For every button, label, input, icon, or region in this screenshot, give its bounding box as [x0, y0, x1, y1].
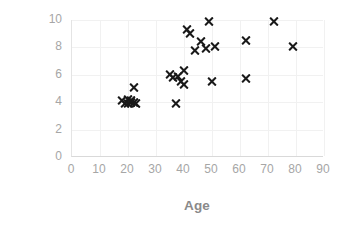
data-point-marker [173, 71, 184, 82]
gridline-vertical [128, 20, 129, 156]
gridline-vertical [184, 20, 185, 156]
gridline-vertical [268, 20, 269, 156]
x-tick-label: 90 [308, 162, 338, 176]
x-tick-label: 0 [56, 162, 86, 176]
x-tick-label: 40 [168, 162, 198, 176]
gridline-vertical [212, 20, 213, 156]
x-axis-title: Age [71, 198, 323, 213]
data-point-marker [240, 35, 251, 46]
y-tick-label: 4 [36, 94, 62, 108]
data-point-marker [288, 41, 299, 52]
data-point-marker [190, 45, 201, 56]
data-point-marker [268, 16, 279, 27]
x-tick-label: 70 [252, 162, 282, 176]
x-tick-label: 80 [280, 162, 310, 176]
data-point-marker [131, 98, 142, 109]
gridline-vertical [296, 20, 297, 156]
gridline-horizontal [72, 102, 323, 103]
data-point-marker [120, 98, 131, 109]
data-point-marker [209, 41, 220, 52]
data-point-marker [195, 36, 206, 47]
x-tick-label: 50 [196, 162, 226, 176]
y-tick-label: 10 [36, 12, 62, 26]
y-tick-label: 8 [36, 39, 62, 53]
y-tick-label: 0 [36, 149, 62, 163]
gridline-horizontal [72, 75, 323, 76]
gridline-vertical [324, 20, 325, 156]
gridline-vertical [156, 20, 157, 156]
gridline-horizontal [72, 20, 323, 21]
y-tick-label: 6 [36, 67, 62, 81]
x-tick-label: 60 [224, 162, 254, 176]
data-point-marker [117, 95, 128, 106]
data-point-marker [201, 43, 212, 54]
gridline-horizontal [72, 47, 323, 48]
x-tick-label: 10 [84, 162, 114, 176]
data-point-marker [167, 72, 178, 83]
plot-area [71, 20, 323, 157]
data-point-marker [170, 98, 181, 109]
gridline-horizontal [72, 130, 323, 131]
y-tick-label: 2 [36, 122, 62, 136]
data-point-marker [204, 16, 215, 27]
gridline-vertical [100, 20, 101, 156]
data-point-marker [184, 28, 195, 39]
scatter-chart: Preference Age 0246810 01020304050607080… [0, 0, 345, 231]
x-tick-label: 30 [140, 162, 170, 176]
x-tick-label: 20 [112, 162, 142, 176]
data-point-marker [176, 76, 187, 87]
data-point-marker [181, 24, 192, 35]
data-point-marker [125, 95, 136, 106]
gridline-vertical [240, 20, 241, 156]
data-point-marker [128, 82, 139, 93]
